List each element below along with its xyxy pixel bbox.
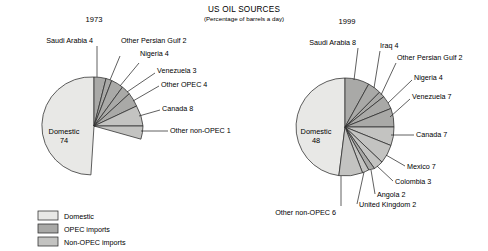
callout-other-opec-1973: Other OPEC 4	[161, 80, 207, 89]
slice-label-domestic-1999: Domestic	[301, 127, 332, 136]
slice-value-domestic-1973: 74	[60, 136, 68, 145]
callout-other-non-opec-1973: Other non-OPEC 1	[170, 126, 231, 135]
leader-nigeria-1999	[388, 80, 412, 103]
leader-other-opec-1973	[133, 86, 159, 101]
wedge-domestic-1973	[42, 77, 94, 175]
callout-saudi-arabia-1999: Saudi Arabia 8	[309, 38, 356, 47]
callout-other-persian-gulf-1973: Other Persian Gulf 2	[121, 36, 187, 45]
leader-venezuela-1973	[127, 73, 155, 92]
callout-colombia-1999: Colombia 3	[395, 177, 431, 186]
callout-united-kingdom-1999: United Kingdom 2	[359, 200, 416, 209]
leader-mexico-1999	[386, 155, 405, 166]
callout-other-persian-gulf-1999: Other Persian Gulf 2	[397, 53, 463, 62]
callout-venezuela-1999: Venezuela 7	[412, 92, 452, 101]
us-oil-sources-figure: US OIL SOURCES (Percentage of barrels a …	[0, 0, 488, 251]
wedge-other-non-opec-1973	[94, 126, 143, 139]
callout-iraq-1999: Iraq 4	[380, 41, 398, 50]
callout-canada-1973: Canada 8	[162, 104, 193, 113]
callout-saudi-arabia-1973: Saudi Arabia 4	[46, 36, 93, 45]
legend-item-opec-imports: OPEC imports	[38, 224, 110, 234]
legend: Domestic OPEC imports Non-OPEC imports	[38, 211, 126, 247]
legend-item-non-opec-imports: Non-OPEC imports	[38, 237, 126, 247]
leader-venezuela-1999	[390, 99, 410, 117]
leader-saudi-arabia-1999	[354, 48, 358, 80]
legend-swatch-non-opec-imports	[38, 237, 58, 246]
callout-nigeria-1973: Nigeria 4	[140, 49, 169, 58]
callout-nigeria-1999: Nigeria 4	[414, 73, 443, 82]
callout-angola-1999: Angola 2	[377, 190, 405, 199]
legend-label-opec-imports: OPEC imports	[64, 225, 110, 234]
page-subtitle: (Percentage of barrels a day)	[204, 15, 284, 22]
leader-colombia-1999	[377, 166, 393, 181]
chart-year-1973: 1973	[86, 15, 103, 24]
callout-venezuela-1973: Venezuela 3	[157, 66, 197, 75]
legend-swatch-domestic	[38, 211, 58, 220]
callout-canada-1999: Canada 7	[416, 130, 447, 139]
leader-other-persian-gulf-1973	[110, 56, 120, 80]
legend-label-non-opec-imports: Non-OPEC imports	[64, 238, 126, 247]
callout-mexico-1999: Mexico 7	[407, 162, 436, 171]
page-title: US OIL SOURCES	[208, 5, 280, 14]
slice-label-domestic-1973: Domestic	[49, 127, 80, 136]
legend-label-domestic: Domestic	[64, 212, 94, 221]
leader-angola-1999	[371, 170, 375, 194]
leader-iraq-1999	[374, 51, 380, 88]
chart-year-1999: 1999	[339, 17, 356, 26]
leader-other-persian-gulf-1999	[381, 63, 396, 95]
slice-value-domestic-1999: 48	[312, 136, 320, 145]
pie-chart-1999: 1999 Domestic 48	[275, 17, 462, 217]
leader-canada-1973	[139, 110, 160, 116]
pie-chart-1973: 1973 Domestic 74 Saudi	[42, 15, 231, 175]
legend-swatch-opec-imports	[38, 224, 58, 233]
legend-item-domestic: Domestic	[38, 211, 94, 221]
callout-other-non-opec-1999: Other non-OPEC 6	[275, 208, 336, 217]
leader-nigeria-1973	[120, 63, 139, 86]
